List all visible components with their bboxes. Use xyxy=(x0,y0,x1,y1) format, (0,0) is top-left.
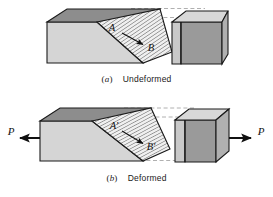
caption-a-text: Undeformed xyxy=(123,74,172,84)
figure-container: A B xyxy=(0,0,273,197)
right-block-a xyxy=(172,11,228,64)
label-point-b: B xyxy=(148,42,155,53)
panel-b-deformed: A' B' P P xyxy=(7,108,265,162)
caption-panel-b: (b) Deformed xyxy=(0,173,273,183)
caption-b-text: Deformed xyxy=(128,173,167,183)
right-block-a-top-face xyxy=(172,11,228,22)
left-block-a xyxy=(47,9,172,63)
right-block-b-edge-strip xyxy=(175,120,185,162)
panel-a-undeformed: A B xyxy=(47,9,228,65)
label-point-b-prime: B' xyxy=(147,141,156,152)
right-block-b-front-face xyxy=(185,120,216,162)
caption-b-paren-close: ) xyxy=(114,173,117,183)
right-block-b xyxy=(175,109,229,162)
label-point-a-prime: A' xyxy=(109,120,119,131)
left-block-b xyxy=(40,108,170,161)
figure-drawing: A B xyxy=(0,0,273,197)
caption-panel-a: (a) Undeformed xyxy=(0,74,273,84)
caption-a-paren-close: ) xyxy=(109,74,112,84)
label-point-a: A xyxy=(108,22,116,33)
label-load-right: P xyxy=(257,125,265,137)
right-block-a-front-face xyxy=(181,22,222,64)
right-block-a-edge-strip xyxy=(172,22,181,64)
label-load-left: P xyxy=(7,125,15,137)
